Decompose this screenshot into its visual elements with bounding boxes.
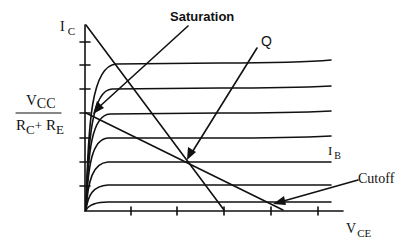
saturation-arrow (98, 26, 188, 108)
y-axis-label: IC (60, 20, 75, 34)
saturation-label: Saturation (170, 10, 234, 23)
fraction-denominator: RC+RE (16, 118, 64, 133)
cutoff-label: Cutoff (358, 172, 394, 186)
x-axis-label: VCE (346, 222, 371, 236)
cutoff-arrow (280, 180, 358, 202)
q-point-label: Q (261, 34, 272, 48)
ib-label: IB (328, 144, 341, 157)
ib-curves (86, 60, 331, 210)
fraction-numerator: VCC (26, 93, 56, 108)
ac-load-line (86, 25, 224, 210)
